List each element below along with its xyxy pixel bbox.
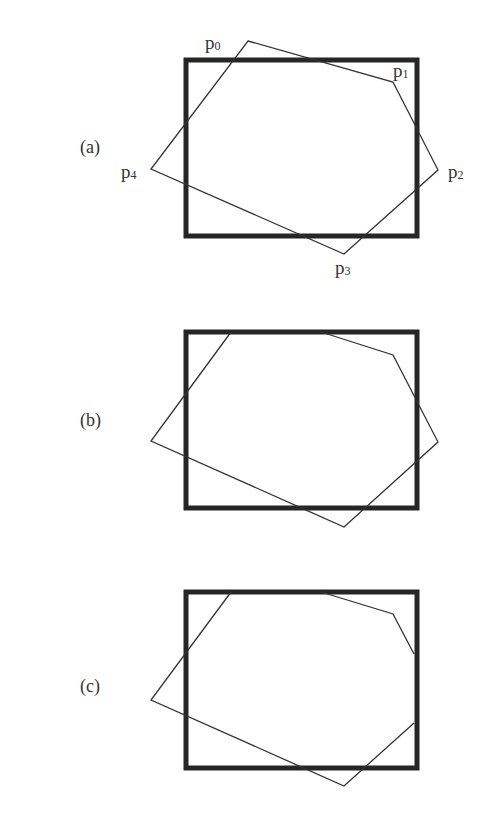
clipping-diagram [0, 0, 483, 822]
panel-c [151, 592, 417, 786]
clip-window-c [186, 592, 417, 768]
vertex-label-p1: p1 [393, 61, 409, 80]
vertex-label-p0: p0 [205, 33, 221, 52]
panel-label-c: (c) [80, 676, 100, 697]
vertex-label-p3: p3 [335, 258, 351, 277]
clip-window-a [186, 60, 417, 236]
panel-b [151, 332, 438, 527]
vertex-label-p4: p4 [121, 162, 137, 181]
clipped-polygon-c [151, 592, 414, 786]
clipped-polygon-c-upper [321, 592, 414, 654]
clipped-polygon-b [151, 332, 438, 527]
vertex-label-p2: p2 [448, 162, 464, 181]
panel-label-b: (b) [80, 410, 101, 431]
panel-label-a: (a) [80, 137, 100, 158]
clip-window-b [186, 332, 417, 508]
